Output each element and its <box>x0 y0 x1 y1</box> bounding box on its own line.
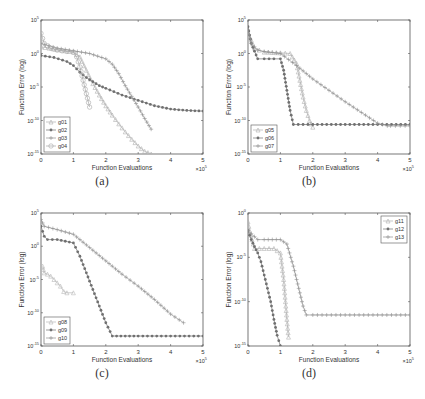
x-tick-label: 4 <box>169 349 173 355</box>
svg-text:100: 100 <box>31 50 39 57</box>
x-tick-label: 1 <box>279 349 283 355</box>
svg-text:10-10: 10-10 <box>234 298 246 305</box>
x-tick-label: 0 <box>39 349 43 355</box>
legend-label-g11: g11 <box>395 218 404 224</box>
x-tick-label: 0 <box>246 349 250 355</box>
x-tick-label: 5 <box>408 349 412 355</box>
legend-label-g03: g03 <box>58 135 67 141</box>
x-tick-label: 0 <box>246 157 250 163</box>
charts-svg: 01234510510010-510-1010-15×105Function E… <box>0 0 425 399</box>
svg-text:10-15: 10-15 <box>234 342 246 349</box>
x-tick-label: 5 <box>201 157 205 163</box>
chart-panel-1: 01234510510010-510-1010-15×105Function E… <box>18 16 207 188</box>
svg-text:10-5: 10-5 <box>236 83 246 90</box>
legend-label-g09: g09 <box>58 327 67 333</box>
x-tick-label: 3 <box>344 157 348 163</box>
legend: g05g06g07 <box>251 125 277 152</box>
x-tick-label: 1 <box>72 349 76 355</box>
legend-label-g05: g05 <box>265 127 274 133</box>
legend-label-g10: g10 <box>58 335 67 341</box>
legend: g01g02g03g04 <box>44 117 70 152</box>
panel-caption: (b) <box>302 174 316 188</box>
x-tick-label: 3 <box>344 349 348 355</box>
svg-text:×105: ×105 <box>196 165 207 172</box>
legend-label-g08: g08 <box>58 319 67 325</box>
svg-text:105: 105 <box>238 16 246 23</box>
svg-text:×105: ×105 <box>403 165 414 172</box>
y-axis-label: Function Error (log) <box>18 59 26 115</box>
svg-text:105: 105 <box>31 16 39 23</box>
svg-text:100: 100 <box>238 50 246 57</box>
x-tick-label: 4 <box>376 157 380 163</box>
legend-label-g13: g13 <box>395 234 404 240</box>
legend-label-g06: g06 <box>265 135 274 141</box>
x-axis-label: Function Evaluations <box>92 356 153 363</box>
legend-label-g04: g04 <box>58 143 67 149</box>
x-tick-label: 2 <box>311 349 315 355</box>
svg-text:100: 100 <box>31 242 39 249</box>
x-tick-label: 2 <box>311 157 315 163</box>
x-axis-label: Function Evaluations <box>299 356 360 363</box>
x-tick-label: 4 <box>169 157 173 163</box>
legend: g08g09g10 <box>44 317 70 344</box>
x-axis-label: Function Evaluations <box>92 164 153 171</box>
svg-text:10-10: 10-10 <box>234 117 246 124</box>
panel-caption: (a) <box>95 174 108 188</box>
svg-text:10-5: 10-5 <box>29 83 39 90</box>
legend-label-g01: g01 <box>58 119 67 125</box>
x-tick-label: 1 <box>279 157 283 163</box>
chart-panel-2: 01234510510010-510-1010-15×105Function E… <box>225 16 414 188</box>
y-axis-label: Function Error (log) <box>18 252 26 308</box>
panel-caption: (d) <box>302 366 316 380</box>
svg-text:×105: ×105 <box>403 357 414 364</box>
svg-text:105: 105 <box>31 209 39 216</box>
legend-label-g07: g07 <box>265 143 274 149</box>
chart-panel-3: 01234510510010-510-1010-15×105Function E… <box>18 209 207 380</box>
figure-grid: 01234510510010-510-1010-15×105Function E… <box>0 0 425 399</box>
x-axis-label: Function Evaluations <box>299 164 360 171</box>
svg-text:10-15: 10-15 <box>27 342 39 349</box>
svg-text:10-15: 10-15 <box>234 150 246 157</box>
x-tick-label: 2 <box>104 157 108 163</box>
y-axis-label: Function Error (log) <box>225 252 233 308</box>
x-tick-label: 2 <box>104 349 108 355</box>
svg-text:10-10: 10-10 <box>27 309 39 316</box>
svg-text:10-5: 10-5 <box>236 253 246 260</box>
legend: g11g12g13 <box>381 216 407 243</box>
y-axis-label: Function Error (log) <box>225 59 233 115</box>
x-tick-label: 5 <box>408 157 412 163</box>
x-tick-label: 1 <box>72 157 76 163</box>
x-tick-label: 3 <box>137 349 141 355</box>
chart-panel-4: 01234510010-510-1010-15×105Function Eval… <box>225 209 414 380</box>
legend-label-g12: g12 <box>395 226 404 232</box>
x-tick-label: 3 <box>137 157 141 163</box>
x-tick-label: 5 <box>201 349 205 355</box>
svg-text:×105: ×105 <box>196 357 207 364</box>
x-tick-label: 0 <box>39 157 43 163</box>
svg-text:10-10: 10-10 <box>27 117 39 124</box>
panel-caption: (c) <box>95 366 108 380</box>
legend-label-g02: g02 <box>58 127 67 133</box>
x-tick-label: 4 <box>376 349 380 355</box>
svg-text:100: 100 <box>238 209 246 216</box>
svg-text:10-5: 10-5 <box>29 276 39 283</box>
svg-text:10-15: 10-15 <box>27 150 39 157</box>
